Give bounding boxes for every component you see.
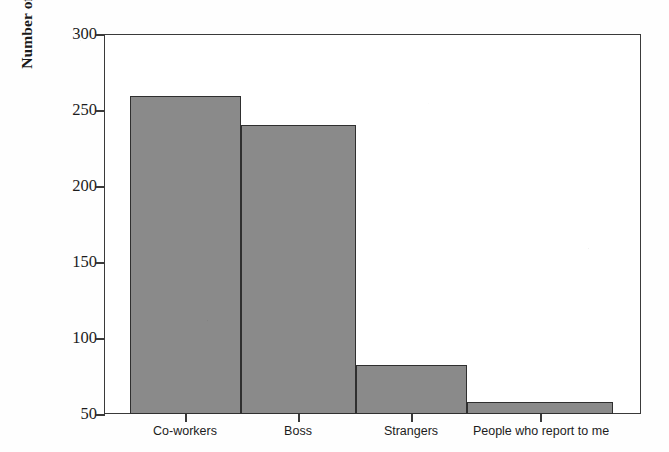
x-axis-label-strangers: Strangers [351, 423, 471, 439]
x-axis-label-boss: Boss [248, 423, 348, 439]
bar-boss [241, 125, 356, 414]
y-tick-label-300: 300 [51, 26, 97, 43]
bar-strangers [356, 365, 467, 414]
bar-people-who-report-to-me [467, 402, 613, 414]
y-tick-label-250: 250 [51, 102, 97, 119]
x-axis-label-co-workers: Co-workers [125, 423, 245, 439]
x-tick-mark-strangers [411, 414, 413, 422]
y-tick-label-100: 100 [51, 330, 97, 347]
y-tick-label-50: 50 [51, 406, 97, 423]
bar-chart: Number of Responses 300 250 200 150 100 … [0, 0, 669, 452]
x-tick-mark-people-who-report-to-me [540, 414, 542, 422]
y-tick-mark-50 [96, 414, 105, 416]
y-tick-label-200: 200 [51, 178, 97, 195]
x-tick-mark-co-workers [185, 414, 187, 422]
bar-co-workers [130, 96, 241, 414]
x-axis-label-people-who-report-to-me: People who report to me [465, 423, 617, 439]
x-tick-mark-boss [298, 414, 300, 422]
y-tick-label-150: 150 [51, 254, 97, 271]
y-axis-title: Number of Responses [14, 0, 40, 126]
